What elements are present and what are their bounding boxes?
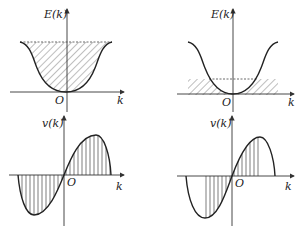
- x-axis-label: k: [288, 96, 295, 109]
- x-axis-label: k: [285, 180, 292, 193]
- y-axis-label: v(k): [210, 117, 231, 130]
- panel-bottom-left: v(k) O k: [9, 116, 124, 226]
- hatched-region: [20, 42, 112, 92]
- panel-top-right: E(k) O k: [177, 8, 295, 112]
- band-diagram-figure: E(k) O k E(k) O k v(k) O k v(k): [0, 0, 300, 231]
- panel-bottom-right: v(k) O k: [177, 116, 294, 226]
- hatched-region: [180, 79, 290, 95]
- y-axis-label: E(k): [43, 8, 67, 21]
- y-axis-label: E(k): [210, 8, 234, 21]
- x-axis-label: k: [117, 94, 124, 107]
- panel-top-left: E(k) O k: [10, 8, 124, 112]
- origin-label: O: [55, 94, 64, 107]
- origin-label: O: [67, 176, 76, 189]
- origin-label: O: [222, 96, 231, 109]
- origin-label: O: [235, 177, 244, 190]
- y-axis-label: v(k): [42, 117, 63, 130]
- x-axis-label: k: [116, 180, 123, 193]
